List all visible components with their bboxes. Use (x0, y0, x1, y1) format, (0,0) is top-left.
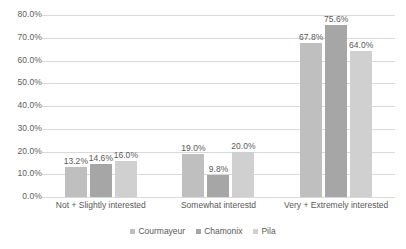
bar[interactable] (115, 161, 137, 197)
bar-value-label: 64.0% (349, 41, 373, 50)
bar[interactable] (232, 152, 254, 198)
gridline (42, 197, 395, 198)
bar-column[interactable]: 67.8% (300, 15, 322, 197)
x-axis-category-label: Not + Slightly interested (56, 200, 146, 210)
y-axis-tick-label: 60.0% (0, 56, 42, 65)
bar-value-label: 20.0% (231, 142, 255, 151)
bar-column[interactable]: 19.0% (182, 15, 204, 197)
legend-label: Courmayeur (138, 227, 185, 236)
y-axis-tick-label: 30.0% (0, 124, 42, 133)
bar-column[interactable]: 16.0% (115, 15, 137, 197)
bar[interactable] (300, 43, 322, 197)
bar[interactable] (350, 51, 372, 197)
y-axis-tick-label: 40.0% (0, 101, 42, 110)
legend-label: Chamonix (204, 227, 242, 236)
bar-value-label: 9.8% (209, 165, 229, 174)
y-axis-tick-label: 80.0% (0, 10, 42, 19)
bar-value-label: 16.0% (114, 151, 138, 160)
bar-value-label: 67.8% (299, 33, 323, 42)
x-axis-category-label: Very + Extremely interested (284, 200, 388, 210)
legend-item[interactable]: Courmayeur (130, 227, 185, 236)
legend-item[interactable]: Pila (253, 227, 275, 236)
plot-area: 0.0%10.0%20.0%30.0%40.0%50.0%60.0%70.0%8… (42, 15, 395, 197)
bar-column[interactable]: 9.8% (207, 15, 229, 197)
y-axis-tick-label: 50.0% (0, 78, 42, 87)
bar[interactable] (90, 164, 112, 197)
legend-swatch-icon (196, 229, 201, 234)
bar-groups: 13.2%14.6%16.0%Not + Slightly interested… (42, 15, 395, 197)
y-axis-tick-label: 70.0% (0, 33, 42, 42)
y-axis-tick-label: 0.0% (0, 192, 42, 201)
legend-label: Pila (261, 227, 275, 236)
bar-value-label: 75.6% (324, 15, 348, 24)
bar[interactable] (182, 154, 204, 197)
bar-group-bars: 13.2%14.6%16.0% (42, 15, 160, 197)
y-axis: 0.0%10.0%20.0%30.0%40.0%50.0%60.0%70.0%8… (0, 15, 42, 197)
bar-group: 19.0%9.8%20.0% (160, 15, 278, 197)
bar-value-label: 14.6% (89, 154, 113, 163)
bar-chart: 0.0%10.0%20.0%30.0%40.0%50.0%60.0%70.0%8… (0, 0, 406, 249)
bar-value-label: 19.0% (181, 144, 205, 153)
legend-item[interactable]: Chamonix (196, 227, 242, 236)
bar-column[interactable]: 14.6% (90, 15, 112, 197)
y-axis-tick-label: 10.0% (0, 169, 42, 178)
chart-legend: CourmayeurChamonixPila (0, 227, 406, 236)
bar-column[interactable]: 13.2% (65, 15, 87, 197)
bar[interactable] (65, 167, 87, 197)
bar-column[interactable]: 64.0% (350, 15, 372, 197)
legend-swatch-icon (130, 229, 135, 234)
bar[interactable] (325, 25, 347, 197)
bar-value-label: 13.2% (64, 157, 88, 166)
legend-swatch-icon (253, 229, 258, 234)
bar-group-bars: 67.8%75.6%64.0% (277, 15, 395, 197)
bar-column[interactable]: 20.0% (232, 15, 254, 197)
bar-group-bars: 19.0%9.8%20.0% (160, 15, 278, 197)
bar[interactable] (207, 175, 229, 197)
y-axis-tick-label: 20.0% (0, 147, 42, 156)
bar-group: 67.8%75.6%64.0% (277, 15, 395, 197)
x-axis-category-label: Somewhat interestd (181, 200, 256, 210)
bar-column[interactable]: 75.6% (325, 15, 347, 197)
bar-group: 13.2%14.6%16.0% (42, 15, 160, 197)
